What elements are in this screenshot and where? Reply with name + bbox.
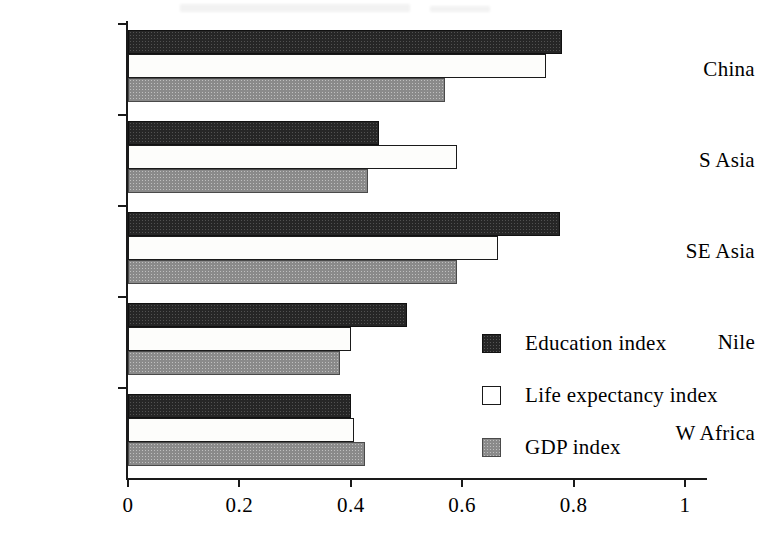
bar-life-expectancy-china [128, 54, 546, 78]
scan-artifact [430, 6, 490, 12]
bar-education-china [128, 30, 562, 54]
legend-label-gdp: GDP index [525, 435, 621, 459]
y-axis-tick [118, 387, 127, 389]
x-axis-tick-label: 0.4 [321, 492, 381, 518]
white-outline-swatch [482, 386, 501, 405]
bar-education-se-asia [128, 212, 560, 236]
y-axis-tick [118, 114, 127, 116]
x-axis-tick [573, 478, 575, 487]
x-axis-tick [238, 478, 240, 487]
dark-speckled-swatch [482, 334, 501, 353]
bar-life-expectancy-w-africa [128, 418, 354, 442]
legend-item-life-expectancy: Life expectancy index [482, 375, 718, 415]
y-axis-tick [118, 23, 127, 25]
x-axis-tick-label: 1 [655, 492, 715, 518]
x-axis-tick-label: 0.2 [209, 492, 269, 518]
y-axis-label-s-asia: S Asia [645, 148, 767, 172]
bar-life-expectancy-s-asia [128, 145, 457, 169]
legend-label-education: Education index [525, 331, 667, 355]
bar-life-expectancy-se-asia [128, 236, 498, 260]
bar-gdp-china [128, 78, 445, 102]
y-axis-tick [118, 205, 127, 207]
legend-item-education: Education index [482, 323, 718, 363]
bar-gdp-s-asia [128, 169, 368, 193]
chart-legend: Education indexLife expectancy indexGDP … [482, 323, 718, 479]
legend-label-life-expectancy: Life expectancy index [525, 383, 718, 407]
bar-chart: ChinaS AsiaSE AsiaNileW Africa 00.20.40.… [0, 0, 767, 547]
x-axis-tick [127, 478, 129, 487]
x-axis-tick-label: 0.6 [432, 492, 492, 518]
x-axis-tick [684, 478, 686, 487]
y-axis-label-china: China [645, 57, 767, 81]
y-axis-label-se-asia: SE Asia [645, 239, 767, 263]
bar-education-nile [128, 303, 407, 327]
bar-education-w-africa [128, 394, 351, 418]
legend-item-gdp: GDP index [482, 427, 718, 467]
x-axis-tick-label: 0.8 [544, 492, 604, 518]
bar-gdp-w-africa [128, 442, 365, 466]
gray-speckled-swatch [482, 438, 501, 457]
bar-education-s-asia [128, 121, 379, 145]
x-axis-tick [461, 478, 463, 487]
x-axis-tick-label: 0 [98, 492, 158, 518]
bar-gdp-se-asia [128, 260, 457, 284]
bar-gdp-nile [128, 351, 340, 375]
scan-artifact [180, 4, 410, 12]
x-axis-tick [350, 478, 352, 487]
y-axis-tick [118, 296, 127, 298]
bar-life-expectancy-nile [128, 327, 351, 351]
